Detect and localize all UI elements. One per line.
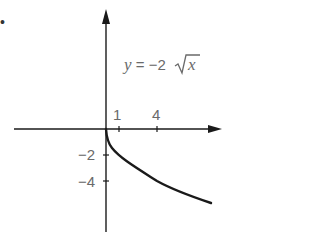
equation-equals: = — [136, 56, 145, 73]
sqrt-icon: x — [174, 56, 196, 73]
equation-lhs: y — [124, 55, 132, 74]
function-curve — [106, 129, 211, 203]
x-tick-label-4: 4 — [152, 107, 160, 122]
x-tick-label-1: 1 — [113, 107, 121, 122]
y-axis-arrow-icon — [102, 9, 110, 24]
x-axis-arrow-icon — [208, 125, 222, 133]
equation-coefficient: −2 — [149, 56, 166, 73]
equation-label: y = −2 x — [124, 56, 195, 73]
y-tick-label-neg4: −4 — [78, 174, 95, 189]
y-tick-label-neg2: −2 — [78, 147, 95, 162]
